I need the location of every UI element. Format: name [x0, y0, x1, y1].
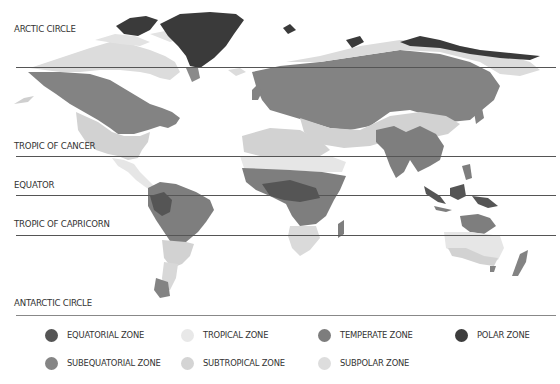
north-america-temperate	[28, 72, 180, 134]
subequatorial-swatch-icon	[45, 357, 58, 370]
greenland	[160, 12, 244, 68]
svalbard	[283, 24, 296, 34]
southern-africa	[288, 226, 320, 256]
polar-swatch-icon	[455, 329, 468, 342]
legend-label: SUBPOLAR ZONE	[340, 358, 409, 368]
tropic-of-cancer-label: TROPIC OF CANCER	[14, 141, 95, 151]
antarctic-circle-line	[16, 315, 556, 316]
legend-item-subequatorial: SUBEQUATORIAL ZONE	[45, 356, 161, 370]
tropic-of-capricorn-line	[16, 235, 556, 236]
subpolar-swatch-icon	[318, 357, 331, 370]
legend-item-temperate: TEMPERATE ZONE	[318, 328, 413, 342]
legend-item-polar: POLAR ZONE	[455, 328, 530, 342]
central-america	[112, 158, 156, 190]
equator-line	[16, 195, 556, 196]
tropic-of-capricorn-label: TROPIC OF CAPRICORN	[14, 219, 110, 229]
borneo	[450, 184, 466, 200]
tropical-swatch-icon	[181, 329, 194, 342]
new-zealand	[512, 250, 528, 276]
new-guinea	[472, 196, 498, 208]
arctic-circle-label: ARCTIC CIRCLE	[14, 24, 76, 34]
legend-item-subpolar: SUBPOLAR ZONE	[318, 356, 409, 370]
java	[434, 206, 452, 212]
legend: EQUATORIAL ZONE TROPICAL ZONE TEMPERATE …	[0, 324, 560, 384]
alaska	[14, 96, 34, 104]
tasmania	[490, 266, 496, 272]
legend-item-tropical: TROPICAL ZONE	[181, 328, 268, 342]
legend-item-subtropical: SUBTROPICAL ZONE	[181, 356, 285, 370]
australia-subequatorial	[460, 214, 496, 234]
philippines	[462, 164, 472, 180]
legend-label: SUBTROPICAL ZONE	[203, 358, 285, 368]
ellesmere	[116, 16, 158, 36]
greenland-south	[186, 68, 200, 82]
legend-label: SUBEQUATORIAL ZONE	[67, 358, 161, 368]
india-subequatorial	[376, 126, 444, 178]
tropic-of-cancer-line	[16, 156, 556, 157]
iceland	[228, 68, 246, 76]
legend-label: TROPICAL ZONE	[203, 330, 268, 340]
world-climate-map	[0, 0, 560, 320]
arctic-circle-line	[16, 67, 556, 68]
equator-label: EQUATOR	[14, 180, 54, 190]
temperate-swatch-icon	[318, 329, 331, 342]
antarctic-circle-label: ANTARCTIC CIRCLE	[14, 298, 92, 308]
legend-label: TEMPERATE ZONE	[340, 330, 413, 340]
legend-label: EQUATORIAL ZONE	[67, 330, 144, 340]
equatorial-swatch-icon	[45, 329, 58, 342]
legend-label: POLAR ZONE	[477, 330, 530, 340]
subtropical-swatch-icon	[181, 357, 194, 370]
legend-item-equatorial: EQUATORIAL ZONE	[45, 328, 144, 342]
